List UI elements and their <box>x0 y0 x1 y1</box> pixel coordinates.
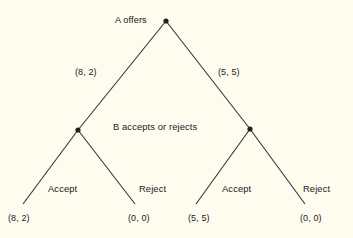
game-tree-svg <box>0 0 353 238</box>
right-decision-node <box>247 126 252 131</box>
left-decision-node <box>75 127 80 132</box>
terminal-payoff-right-accept: (5, 5) <box>188 214 210 223</box>
edge-left-reject <box>78 130 135 204</box>
root-node-a-offers <box>163 18 168 23</box>
offer-label-right: (5, 5) <box>218 68 240 77</box>
terminal-payoff-left-reject: (0, 0) <box>128 214 150 223</box>
action-label-right-reject: Reject <box>303 184 330 193</box>
terminal-payoff-right-reject: (0, 0) <box>300 214 322 223</box>
action-label-right-accept: Accept <box>222 184 251 193</box>
root-node-label: A offers <box>115 16 147 25</box>
action-label-left-reject: Reject <box>139 184 166 193</box>
center-note-label: B accepts or rejects <box>113 122 197 131</box>
game-tree-diagram: A offers (8, 2) (5, 5) B accepts or reje… <box>0 0 353 238</box>
tree-edges <box>23 21 305 204</box>
offer-label-left: (8, 2) <box>75 68 97 77</box>
action-label-left-accept: Accept <box>48 184 77 193</box>
edge-right-reject <box>250 129 305 204</box>
terminal-payoff-left-accept: (8, 2) <box>8 214 30 223</box>
